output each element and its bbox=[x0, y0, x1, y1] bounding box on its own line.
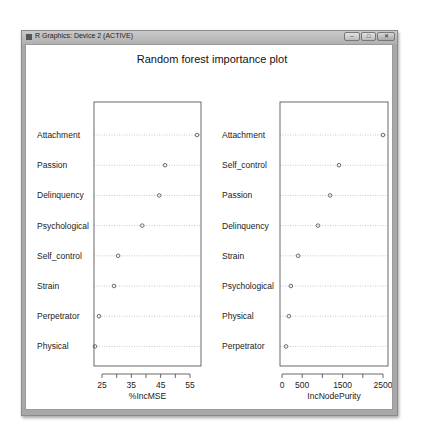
category-label: Perpetrator bbox=[222, 341, 265, 351]
category-label: Strain bbox=[222, 251, 244, 261]
category-label: Self_control bbox=[222, 160, 267, 170]
dot-row: Strain bbox=[37, 281, 201, 291]
category-label: Strain bbox=[37, 281, 59, 291]
x-tick-label: 35 bbox=[127, 380, 137, 390]
x-tick-label: 45 bbox=[156, 380, 166, 390]
minimize-button[interactable]: – bbox=[344, 32, 360, 41]
title-bar[interactable]: R Graphics: Device 2 (ACTIVE) – □ ✕ bbox=[22, 31, 397, 44]
panel-incmse: AttachmentPassionDelinquencyPsychologica… bbox=[37, 102, 201, 401]
dot-row: Psychological bbox=[37, 221, 201, 231]
category-label: Passion bbox=[37, 160, 68, 170]
dot-row: Delinquency bbox=[222, 221, 388, 231]
category-label: Attachment bbox=[37, 130, 81, 140]
r-app-icon bbox=[26, 34, 32, 40]
x-tick-label: 500 bbox=[295, 380, 309, 390]
category-label: Delinquency bbox=[222, 221, 270, 231]
x-axis-label: %IncMSE bbox=[129, 391, 167, 401]
category-label: Self_control bbox=[37, 251, 82, 261]
x-tick-label: 2500 bbox=[374, 380, 392, 390]
category-label: Passion bbox=[222, 190, 253, 200]
panel-incnodepurity: AttachmentSelf_controlPassionDelinquency… bbox=[222, 102, 392, 401]
x-tick-label: 1500 bbox=[333, 380, 352, 390]
maximize-button[interactable]: □ bbox=[361, 32, 376, 41]
dot-row: Physical bbox=[37, 341, 201, 351]
category-label: Psychological bbox=[222, 281, 274, 291]
category-label: Physical bbox=[222, 311, 254, 321]
x-axis-label: IncNodePurity bbox=[307, 391, 361, 401]
x-tick-label: 55 bbox=[185, 380, 195, 390]
dot-row: Physical bbox=[222, 311, 388, 321]
dot-row: Psychological bbox=[222, 281, 388, 291]
dot-row: Strain bbox=[222, 251, 388, 261]
importance-plot: Random forest importance plot Attachment… bbox=[26, 45, 392, 409]
dot-row: Passion bbox=[37, 160, 201, 170]
dot-row: Perpetrator bbox=[37, 311, 201, 321]
category-label: Attachment bbox=[222, 130, 266, 140]
close-button[interactable]: ✕ bbox=[377, 32, 395, 41]
x-tick-label: 0 bbox=[280, 380, 285, 390]
dot-row: Perpetrator bbox=[222, 341, 388, 351]
dot-row: Attachment bbox=[37, 130, 201, 140]
plot-box bbox=[280, 102, 388, 366]
plot-title: Random forest importance plot bbox=[137, 53, 287, 65]
window-title: R Graphics: Device 2 (ACTIVE) bbox=[35, 32, 133, 39]
dot-row: Self_control bbox=[222, 160, 388, 170]
category-label: Delinquency bbox=[37, 190, 85, 200]
graphics-canvas: Random forest importance plot Attachment… bbox=[25, 44, 393, 410]
dot-row: Self_control bbox=[37, 251, 201, 261]
category-label: Physical bbox=[37, 341, 69, 351]
plot-box bbox=[94, 102, 201, 366]
r-graphics-window: R Graphics: Device 2 (ACTIVE) – □ ✕ Rand… bbox=[21, 30, 398, 416]
dot-row: Delinquency bbox=[37, 190, 201, 200]
dot-row: Attachment bbox=[222, 130, 388, 140]
data-point bbox=[284, 345, 288, 349]
dot-row: Passion bbox=[222, 190, 388, 200]
category-label: Perpetrator bbox=[37, 311, 80, 321]
x-tick-label: 25 bbox=[97, 380, 107, 390]
data-point bbox=[163, 163, 167, 167]
category-label: Psychological bbox=[37, 221, 89, 231]
